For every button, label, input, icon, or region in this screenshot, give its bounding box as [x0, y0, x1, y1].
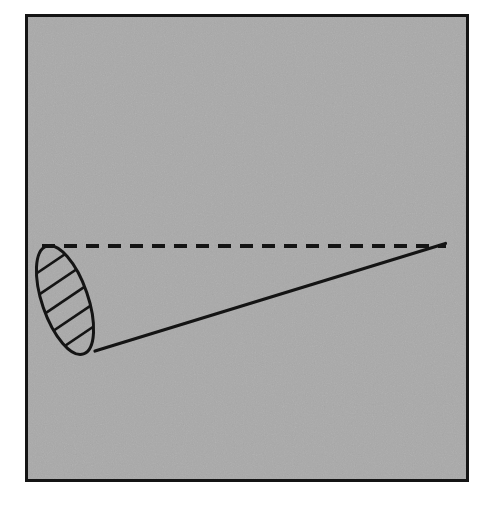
cone-diagram: Oblique cone with dashed axis Line drawi… [0, 0, 491, 509]
figure-root: Oblique cone with dashed axis Line drawi… [0, 0, 491, 509]
